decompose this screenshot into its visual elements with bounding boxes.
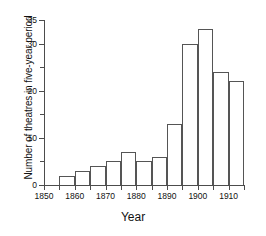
y-axis-minor-tick: [40, 161, 44, 162]
x-axis-minor-tick: [182, 185, 183, 190]
histogram-bar: [121, 152, 136, 185]
x-axis-minor-tick: [152, 185, 153, 190]
x-axis-tick-label: 1860: [65, 192, 84, 201]
histogram-bar: [213, 72, 228, 185]
y-axis-minor-tick: [40, 67, 44, 68]
histogram-bar: [136, 161, 151, 185]
y-axis-tick: [39, 44, 44, 45]
x-axis-tick: [106, 185, 107, 190]
histogram-bar: [182, 44, 197, 185]
x-axis-tick-label: 1850: [35, 192, 54, 201]
x-axis-tick-label: 1900: [188, 192, 207, 201]
x-axis-tick-label: 1880: [127, 192, 146, 201]
x-axis-minor-tick: [121, 185, 122, 190]
histogram-bar: [167, 124, 182, 185]
histogram-bar: [229, 81, 244, 185]
x-axis-tick: [75, 185, 76, 190]
histogram-bar: [59, 176, 74, 185]
y-axis-title: Number of theatres in five-year period: [23, 8, 34, 188]
y-axis-tick: [39, 138, 44, 139]
x-axis-minor-tick: [90, 185, 91, 190]
plot-area: 010203035 1850186018701880189019001910: [44, 20, 244, 185]
y-axis-line: [44, 20, 45, 185]
x-axis-tick: [136, 185, 137, 190]
histogram-bar: [90, 166, 105, 185]
histogram-bar: [106, 161, 121, 185]
x-axis-tick: [229, 185, 230, 190]
histogram-chart: Number of theatres in five-year period 0…: [0, 0, 266, 236]
y-axis-tick: [39, 20, 44, 21]
y-axis-tick-label: 10: [28, 134, 37, 143]
y-axis-tick-label: 30: [28, 39, 37, 48]
histogram-bar: [198, 29, 213, 185]
x-axis-tick-label: 1910: [219, 192, 238, 201]
y-axis-tick-label: 20: [28, 86, 37, 95]
x-axis-tick: [198, 185, 199, 190]
x-axis-tick-label: 1870: [96, 192, 115, 201]
histogram-bar: [75, 171, 90, 185]
x-axis-minor-tick: [59, 185, 60, 190]
x-axis-title: Year: [0, 210, 266, 224]
x-axis-tick: [167, 185, 168, 190]
x-axis-tick-label: 1890: [158, 192, 177, 201]
x-axis-tick: [44, 185, 45, 190]
x-axis-minor-tick: [244, 185, 245, 190]
y-axis-tick-label: 0: [32, 181, 37, 190]
y-axis-tick: [39, 91, 44, 92]
x-axis-minor-tick: [213, 185, 214, 190]
y-axis-minor-tick: [40, 114, 44, 115]
histogram-bar: [152, 157, 167, 185]
y-axis-tick-label: 35: [28, 16, 37, 25]
